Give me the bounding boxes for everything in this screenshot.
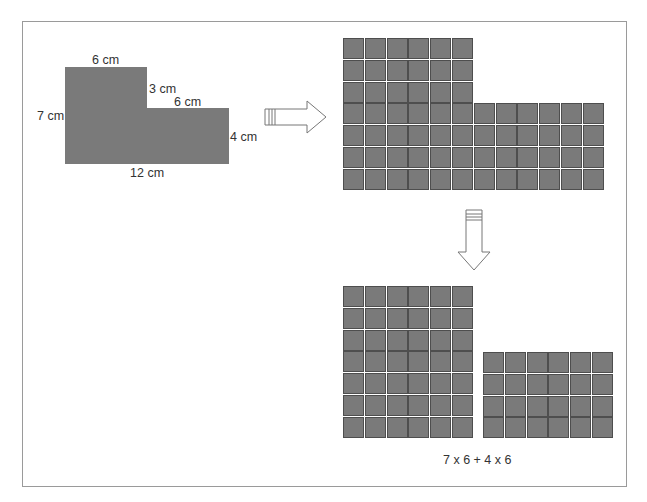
unit-square [592, 417, 613, 438]
label-bottom-width: 12 cm [130, 166, 164, 180]
unit-square [365, 373, 386, 394]
unit-square [592, 374, 613, 395]
unit-square [539, 125, 560, 146]
unit-square [570, 417, 591, 438]
unit-square [365, 351, 386, 372]
unit-square [483, 396, 504, 417]
unit-square [343, 351, 364, 372]
unit-square [387, 169, 408, 190]
unit-square [505, 352, 526, 373]
unit-square [387, 308, 408, 329]
unit-square [583, 103, 604, 124]
unit-square [343, 395, 364, 416]
unit-square [517, 103, 538, 124]
unit-square [474, 147, 495, 168]
unit-square [583, 125, 604, 146]
unit-square [387, 417, 408, 438]
unit-square [343, 38, 364, 59]
unit-square [365, 286, 386, 307]
unit-square [592, 352, 613, 373]
unit-square [430, 82, 451, 103]
unit-square [343, 308, 364, 329]
unit-square [452, 147, 473, 168]
unit-square [430, 103, 451, 124]
unit-square [430, 286, 451, 307]
unit-square [408, 147, 429, 168]
unit-square [343, 125, 364, 146]
unit-square [527, 396, 548, 417]
unit-square [430, 351, 451, 372]
unit-square [365, 38, 386, 59]
unit-square [365, 395, 386, 416]
unit-square [343, 330, 364, 351]
unit-square [365, 308, 386, 329]
unit-square [452, 125, 473, 146]
unit-square [365, 60, 386, 81]
unit-square [365, 82, 386, 103]
unit-square [408, 417, 429, 438]
unit-square [387, 38, 408, 59]
unit-square [517, 125, 538, 146]
unit-square [496, 103, 517, 124]
unit-square [430, 395, 451, 416]
unit-square [452, 60, 473, 81]
unit-square [430, 125, 451, 146]
unit-square [430, 308, 451, 329]
unit-square [387, 60, 408, 81]
unit-square [408, 330, 429, 351]
unit-square [387, 395, 408, 416]
unit-square [408, 103, 429, 124]
unit-square [387, 147, 408, 168]
unit-square [408, 82, 429, 103]
unit-square [496, 125, 517, 146]
l-shape [65, 67, 229, 165]
unit-square [561, 169, 582, 190]
unit-square [430, 60, 451, 81]
unit-square [408, 60, 429, 81]
unit-square [430, 417, 451, 438]
unit-square [343, 82, 364, 103]
unit-square [408, 286, 429, 307]
unit-square [505, 417, 526, 438]
unit-square [452, 417, 473, 438]
unit-square [561, 147, 582, 168]
unit-square [408, 125, 429, 146]
unit-square [570, 396, 591, 417]
area-formula: 7 x 6 + 4 x 6 [443, 453, 511, 467]
label-step-horizontal: 6 cm [174, 95, 201, 109]
unit-square [452, 38, 473, 59]
label-top-width: 6 cm [92, 53, 119, 67]
unit-square [430, 147, 451, 168]
unit-square [548, 396, 569, 417]
unit-square [452, 395, 473, 416]
unit-square [430, 38, 451, 59]
unit-square [505, 374, 526, 395]
unit-square [365, 417, 386, 438]
unit-square [517, 147, 538, 168]
down-arrow-icon [456, 208, 492, 274]
unit-square [387, 125, 408, 146]
unit-square [548, 352, 569, 373]
unit-square [583, 147, 604, 168]
unit-square [343, 147, 364, 168]
unit-square [408, 38, 429, 59]
unit-square [430, 169, 451, 190]
unit-square [343, 286, 364, 307]
label-right-height: 4 cm [230, 130, 257, 144]
unit-square [343, 103, 364, 124]
unit-square [527, 374, 548, 395]
unit-square [474, 169, 495, 190]
unit-square [452, 169, 473, 190]
unit-square [365, 330, 386, 351]
unit-square [570, 352, 591, 373]
right-arrow-icon [263, 99, 329, 135]
unit-square [474, 103, 495, 124]
label-step-vertical: 3 cm [149, 82, 176, 96]
unit-square [452, 351, 473, 372]
unit-square [387, 330, 408, 351]
unit-square [343, 169, 364, 190]
unit-square [483, 374, 504, 395]
unit-square [483, 352, 504, 373]
unit-square [408, 373, 429, 394]
unit-square [548, 417, 569, 438]
